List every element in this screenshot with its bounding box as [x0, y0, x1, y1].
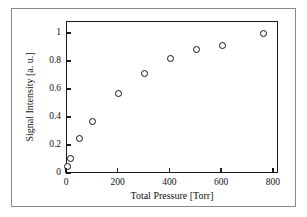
figure: 00.20.40.60.81 0200400600800 Total Press… — [0, 0, 307, 217]
y-tick-mark — [66, 172, 71, 173]
x-tick-mark — [65, 168, 66, 173]
x-tick-label: 600 — [214, 178, 228, 188]
plot-area — [67, 22, 277, 172]
y-tick-mark — [66, 32, 71, 33]
x-tick-label: 0 — [64, 178, 69, 188]
data-point — [193, 46, 200, 53]
x-axis-label: Total Pressure [Torr] — [66, 190, 278, 201]
data-point — [67, 155, 74, 162]
y-axis-label: Signal Intensity [a. u.] — [24, 52, 35, 141]
y-axis-label-container: Signal Intensity [a. u.] — [22, 21, 36, 173]
data-point — [141, 70, 148, 77]
x-tick-mark — [220, 168, 221, 173]
y-tick-mark — [66, 88, 71, 89]
data-point — [167, 55, 174, 62]
data-point — [89, 118, 96, 125]
x-tick-label: 800 — [266, 178, 280, 188]
x-tick-label: 400 — [162, 178, 176, 188]
x-tick-mark — [169, 168, 170, 173]
plot-frame — [66, 21, 278, 173]
data-point — [115, 90, 122, 97]
x-tick-mark — [117, 168, 118, 173]
data-point — [219, 42, 226, 49]
y-tick-mark — [66, 60, 71, 61]
y-tick-mark — [66, 116, 71, 117]
y-tick-mark — [66, 144, 71, 145]
x-tick-label: 200 — [111, 178, 125, 188]
x-tick-mark — [272, 168, 273, 173]
data-point — [260, 30, 267, 37]
data-point — [76, 135, 83, 142]
